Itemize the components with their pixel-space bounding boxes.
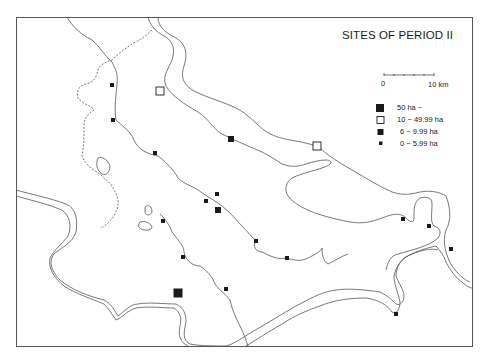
site-marker-6-9.99 — [228, 136, 234, 142]
pond-west — [97, 157, 110, 174]
legend-symbol-0-5ha — [379, 142, 383, 146]
map-title: SITES OF PERIOD II — [342, 29, 453, 41]
legend-symbol-10-49ha — [377, 117, 384, 124]
site-marker-0-5.99 — [254, 239, 258, 243]
site-marker-0-5.99 — [110, 83, 114, 87]
site-marker-0-5.99 — [153, 151, 157, 155]
site-marker-0-5.99 — [215, 192, 219, 196]
site-marker-0-5.99 — [181, 255, 185, 259]
stream-central — [67, 17, 348, 264]
scale-bar — [384, 73, 434, 76]
site-marker-6-9.99 — [215, 207, 221, 213]
scale-start-label: 0 — [381, 79, 385, 88]
legend-label-0-5ha: 0 ~ 5.99 ha — [400, 139, 438, 148]
site-marker-10-49.99 — [156, 87, 164, 95]
site-marker-0-5.99 — [224, 287, 228, 291]
pond-south — [138, 221, 152, 230]
legend-label-50ha: 50 ha ~ — [397, 103, 422, 112]
river-south-bank-south — [16, 196, 188, 346]
legend-symbol-50ha — [376, 104, 384, 112]
river-northeast-bank-west — [148, 17, 331, 166]
river-bend-loop — [286, 165, 440, 270]
site-marker-0-5.99 — [427, 224, 431, 228]
boundary-dashed — [77, 30, 152, 228]
site-marker-0-5.99 — [449, 247, 453, 251]
river-south-bank-east — [246, 249, 438, 346]
site-marker-0-5.99 — [161, 219, 165, 223]
site-marker-0-5.99 — [401, 217, 405, 221]
stream-south — [160, 214, 248, 346]
site-marker-50+ — [174, 289, 183, 298]
river-south-bank-north — [16, 190, 472, 346]
site-marker-0-5.99 — [111, 118, 115, 122]
scale-end-label: 10 km — [428, 80, 448, 89]
legend-label-10-49ha: 10 ~ 49.99 ha — [397, 115, 443, 124]
site-marker-0-5.99 — [285, 256, 289, 260]
site-marker-0-5.99 — [394, 312, 398, 316]
site-marker-10-49.99 — [313, 142, 321, 150]
legend-symbol-6-9ha — [378, 129, 384, 135]
site-marker-0-5.99 — [204, 199, 208, 203]
legend-label-6-9ha: 6 ~ 9.99 ha — [400, 127, 438, 136]
map-canvas — [0, 0, 487, 360]
stream-southern — [145, 206, 152, 215]
